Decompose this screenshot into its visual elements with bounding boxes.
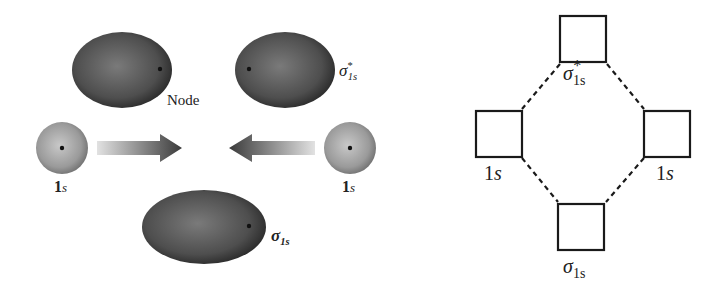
antibonding-lobe-left [72, 32, 172, 108]
bonding-orbital-ellipse [142, 190, 266, 264]
diagram-canvas [0, 0, 721, 300]
node-label: Node [167, 92, 200, 109]
bonding-box [558, 204, 604, 250]
ao-label-left: 1s [54, 178, 67, 196]
ao-label-right: 1s [342, 178, 355, 196]
right-ao-box [644, 111, 690, 157]
arrow-right-icon [97, 134, 182, 162]
ao-label-left-right-panel: 1s [484, 162, 502, 185]
antibonding-box [560, 16, 606, 62]
atomic-orbital-sphere-right [324, 122, 376, 174]
antibonding-label-left-panel: σ*1s [339, 60, 357, 82]
antibonding-label-right-panel: σ1s* [563, 62, 581, 85]
left-ao-box [476, 111, 522, 157]
antibonding-lobe-right [235, 32, 335, 108]
atomic-orbital-sphere-left [36, 122, 88, 174]
arrow-left-icon [229, 134, 315, 162]
bonding-label-right-panel: σ1s [563, 255, 585, 278]
bonding-label-left-panel: σ1s [271, 226, 290, 247]
ao-label-right-right-panel: 1s [656, 162, 674, 185]
energy-diagram [476, 16, 690, 250]
